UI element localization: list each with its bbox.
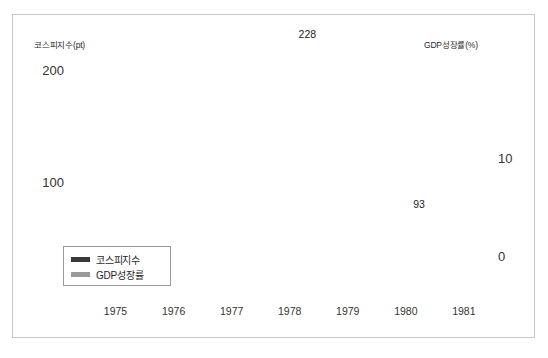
- x-axis-tick-1981: 1981: [434, 305, 494, 317]
- right-axis-tick-10: 10: [498, 151, 542, 166]
- legend-label-kospi: 코스피지수: [96, 252, 140, 267]
- legend-swatch-gdp: [71, 272, 90, 277]
- x-axis-tick-1976: 1976: [144, 305, 204, 317]
- right-axis-tick-0: 0: [498, 249, 542, 264]
- legend-item-gdp: GDP성장률: [71, 267, 164, 282]
- x-axis-tick-1975: 1975: [86, 305, 146, 317]
- left-axis-tick-100: 100: [20, 175, 64, 190]
- legend-item-kospi: 코스피지수: [71, 252, 164, 267]
- x-axis-tick-1980: 1980: [376, 305, 436, 317]
- right-axis-title: GDP성장률(%): [424, 38, 478, 50]
- x-axis-tick-1978: 1978: [260, 305, 320, 317]
- annotation-228: 228: [299, 28, 317, 40]
- chart-frame: [12, 14, 535, 338]
- x-axis-tick-1977: 1977: [202, 305, 262, 317]
- chart-legend: 코스피지수 GDP성장률: [63, 246, 171, 286]
- legend-label-gdp: GDP성장률: [96, 267, 143, 282]
- x-axis-tick-1979: 1979: [318, 305, 378, 317]
- left-axis-tick-200: 200: [20, 63, 64, 78]
- annotation-93: 93: [413, 198, 425, 210]
- left-axis-title: 코스피지수(pt): [34, 38, 85, 50]
- legend-swatch-kospi: [71, 257, 90, 262]
- chart-figure: 코스피지수(pt) GDP성장률(%) 200 100 10 0 1975197…: [0, 0, 548, 358]
